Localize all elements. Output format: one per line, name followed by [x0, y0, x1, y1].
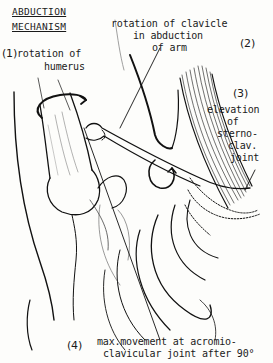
label-2-line1: rotation of clavicle — [111, 18, 227, 29]
label-3-line2: of — [227, 116, 239, 127]
diagram-title-line1: ABDUCTION — [12, 6, 66, 17]
label-4-line2: clavicular joint after 90° — [103, 348, 254, 359]
diagram-canvas: ABDUCTION MECHANISM (1)rotation of humer… — [0, 0, 273, 363]
label-1-line1: rotation of — [17, 48, 81, 59]
label-2-line2: in abduction — [133, 30, 203, 41]
label-1-group: (1)rotation of — [2, 48, 81, 59]
label-3-line4: clav. — [228, 140, 257, 151]
label-3-line5: joint — [230, 152, 259, 163]
diagram-title-line2: MECHANISM — [12, 21, 66, 32]
label-4-line1: max.movement at acromio- — [97, 336, 237, 347]
label-3-number: (3) — [233, 88, 248, 99]
label-1-line2: humerus — [44, 61, 85, 72]
label-3-line3: sterno- — [217, 128, 258, 139]
label-2-number: (2) — [240, 38, 255, 49]
label-3-line1: elevation — [207, 104, 259, 115]
label-4-number: (4) — [67, 340, 82, 351]
label-2-line3: of arm — [152, 42, 187, 53]
label-1-number: (1) — [2, 47, 17, 60]
